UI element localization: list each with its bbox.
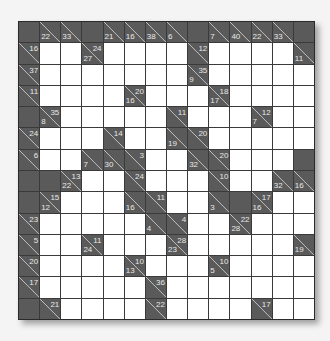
entry-cell[interactable] [252,128,272,148]
entry-cell[interactable] [61,86,81,106]
entry-cell[interactable] [146,256,166,276]
entry-cell[interactable] [273,128,293,148]
entry-cell[interactable] [188,299,208,319]
entry-cell[interactable] [230,65,250,85]
entry-cell[interactable] [252,214,272,234]
entry-cell[interactable] [167,256,187,276]
entry-cell[interactable] [273,65,293,85]
entry-cell[interactable] [209,235,229,255]
entry-cell[interactable] [104,299,124,319]
entry-cell[interactable] [104,171,124,191]
entry-cell[interactable] [82,192,102,212]
entry-cell[interactable] [294,192,314,212]
entry-cell[interactable] [82,65,102,85]
entry-cell[interactable] [82,256,102,276]
entry-cell[interactable] [188,256,208,276]
entry-cell[interactable] [209,128,229,148]
entry-cell[interactable] [82,214,102,234]
entry-cell[interactable] [273,235,293,255]
entry-cell[interactable] [104,43,124,63]
entry-cell[interactable] [146,65,166,85]
entry-cell[interactable] [104,235,124,255]
entry-cell[interactable] [125,65,145,85]
entry-cell[interactable] [61,107,81,127]
entry-cell[interactable] [167,43,187,63]
entry-cell[interactable] [230,256,250,276]
entry-cell[interactable] [273,43,293,63]
entry-cell[interactable] [104,107,124,127]
entry-cell[interactable] [294,107,314,127]
entry-cell[interactable] [209,299,229,319]
entry-cell[interactable] [230,277,250,297]
entry-cell[interactable] [230,150,250,170]
entry-cell[interactable] [252,256,272,276]
entry-cell[interactable] [209,107,229,127]
entry-cell[interactable] [273,107,293,127]
entry-cell[interactable] [125,299,145,319]
entry-cell[interactable] [273,150,293,170]
entry-cell[interactable] [252,171,272,191]
entry-cell[interactable] [167,150,187,170]
entry-cell[interactable] [82,299,102,319]
entry-cell[interactable] [273,86,293,106]
entry-cell[interactable] [40,65,60,85]
entry-cell[interactable] [61,43,81,63]
entry-cell[interactable] [273,192,293,212]
entry-cell[interactable] [146,150,166,170]
entry-cell[interactable] [273,277,293,297]
entry-cell[interactable] [82,277,102,297]
entry-cell[interactable] [82,128,102,148]
entry-cell[interactable] [252,277,272,297]
entry-cell[interactable] [294,128,314,148]
entry-cell[interactable] [82,171,102,191]
entry-cell[interactable] [61,256,81,276]
entry-cell[interactable] [40,277,60,297]
entry-cell[interactable] [294,214,314,234]
entry-cell[interactable] [40,150,60,170]
entry-cell[interactable] [167,277,187,297]
entry-cell[interactable] [230,107,250,127]
entry-cell[interactable] [40,43,60,63]
entry-cell[interactable] [294,277,314,297]
entry-cell[interactable] [125,43,145,63]
entry-cell[interactable] [61,277,81,297]
entry-cell[interactable] [167,192,187,212]
entry-cell[interactable] [252,43,272,63]
entry-cell[interactable] [104,256,124,276]
entry-cell[interactable] [125,235,145,255]
entry-cell[interactable] [252,86,272,106]
entry-cell[interactable] [146,86,166,106]
entry-cell[interactable] [230,128,250,148]
entry-cell[interactable] [61,192,81,212]
entry-cell[interactable] [40,256,60,276]
entry-cell[interactable] [125,277,145,297]
entry-cell[interactable] [104,192,124,212]
entry-cell[interactable] [40,214,60,234]
entry-cell[interactable] [230,171,250,191]
entry-cell[interactable] [167,86,187,106]
entry-cell[interactable] [146,235,166,255]
entry-cell[interactable] [188,86,208,106]
entry-cell[interactable] [294,86,314,106]
entry-cell[interactable] [188,192,208,212]
entry-cell[interactable] [125,214,145,234]
entry-cell[interactable] [252,65,272,85]
entry-cell[interactable] [40,128,60,148]
entry-cell[interactable] [252,235,272,255]
entry-cell[interactable] [146,171,166,191]
entry-cell[interactable] [230,299,250,319]
entry-cell[interactable] [167,171,187,191]
entry-cell[interactable] [125,107,145,127]
entry-cell[interactable] [125,128,145,148]
entry-cell[interactable] [294,299,314,319]
entry-cell[interactable] [61,150,81,170]
entry-cell[interactable] [61,214,81,234]
entry-cell[interactable] [209,214,229,234]
entry-cell[interactable] [167,65,187,85]
entry-cell[interactable] [209,277,229,297]
entry-cell[interactable] [146,128,166,148]
entry-cell[interactable] [61,299,81,319]
entry-cell[interactable] [273,299,293,319]
entry-cell[interactable] [104,65,124,85]
entry-cell[interactable] [82,107,102,127]
